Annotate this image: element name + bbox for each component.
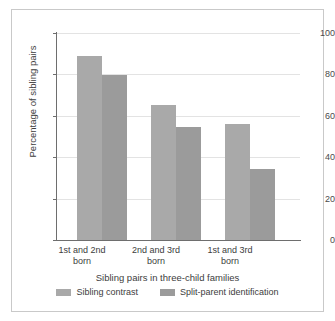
legend-swatch-icon-series1	[160, 289, 175, 296]
y-tick-label-80: 80	[301, 70, 335, 79]
x-tick-label-group2-line2: born	[185, 256, 275, 267]
legend-entry-split-parent-identification: Split-parent identification	[160, 288, 279, 297]
bar-group2-series0	[225, 124, 250, 240]
bar-group1-series1	[176, 127, 201, 240]
y-axis-title: Percentage of sibling pairs	[27, 22, 38, 182]
bar-group2-series1	[250, 169, 275, 240]
gridline-100	[57, 33, 300, 34]
x-axis-title: Sibling pairs in three-child families	[0, 272, 335, 283]
x-tick-label-group2: 1st and 3rd born	[185, 245, 275, 267]
bar-group0-series0	[77, 56, 102, 240]
legend-swatch-icon-series0	[56, 289, 71, 296]
y-tick-label-40: 40	[301, 153, 335, 162]
y-tick-label-60: 60	[301, 112, 335, 121]
x-tick-label-group2-line1: 1st and 3rd	[185, 245, 275, 256]
y-tick-label-100: 100	[301, 29, 335, 38]
bar-group0-series1	[102, 75, 127, 240]
legend-label-series0: Sibling contrast	[76, 288, 138, 297]
y-tick-label-0: 0	[301, 236, 335, 245]
y-tick-label-20: 20	[301, 195, 335, 204]
bar-group1-series0	[151, 105, 176, 240]
legend-label-series1: Split-parent identification	[180, 288, 279, 297]
chart-legend: Sibling contrast Split-parent identifica…	[0, 288, 335, 297]
chart-figure: 100 80 60 40 20 0 1st and 2nd born 2nd a…	[0, 0, 335, 321]
x-axis-line	[56, 240, 301, 241]
plot-area	[57, 33, 300, 240]
legend-entry-sibling-contrast: Sibling contrast	[56, 288, 138, 297]
